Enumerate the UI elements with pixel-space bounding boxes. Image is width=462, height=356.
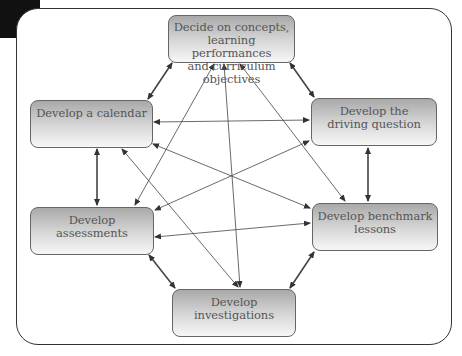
node-assessments: Develop assessments: [30, 207, 154, 255]
node-calendar: Develop a calendar: [30, 100, 153, 148]
node-benchmark: Develop benchmark lessons: [312, 203, 438, 251]
edge-assessments-investigations: [149, 255, 175, 288]
node-objectives: Decide on concepts, learning performance…: [168, 15, 295, 63]
node-objectives-line-3: and curriculum objectives: [169, 60, 294, 86]
node-objectives-line-2: learning performances: [169, 34, 294, 60]
node-investigations: Develop investigations: [172, 289, 296, 337]
node-assessments-line-2: assessments: [31, 227, 153, 240]
node-benchmark-line-2: lessons: [313, 223, 437, 236]
node-investigations-line-2: investigations: [173, 309, 295, 322]
node-driving-question-line-2: driving question: [312, 118, 436, 131]
edge-benchmark-investigations: [290, 252, 314, 288]
edge-calendar-driving-question: [154, 120, 309, 122]
node-driving-question: Develop the driving question: [311, 98, 437, 146]
edge-assessments-benchmark: [155, 223, 310, 237]
edge-driving-question-assessments: [155, 141, 309, 210]
node-calendar-line-1: Develop a calendar: [31, 107, 152, 120]
